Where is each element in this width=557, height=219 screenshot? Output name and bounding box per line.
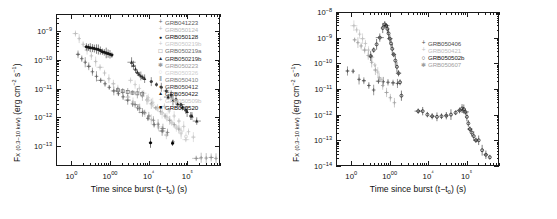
x-minor-tick xyxy=(184,14,185,17)
data-point xyxy=(355,28,359,32)
legend-label: GRB050410 xyxy=(165,76,198,83)
x-major-tick xyxy=(467,12,468,17)
data-point xyxy=(353,38,357,42)
y-minor-tick xyxy=(218,33,221,34)
y-minor-tick xyxy=(336,66,339,67)
x-minor-tick xyxy=(408,12,409,15)
y-minor-tick xyxy=(497,74,500,75)
y-minor-tick xyxy=(497,40,500,41)
y-minor-tick xyxy=(56,95,59,96)
y-minor-tick xyxy=(218,66,221,67)
x-minor-tick xyxy=(147,14,148,17)
legend-label: GRB050421 xyxy=(428,47,461,54)
y-minor-tick xyxy=(497,91,500,92)
y-minor-tick xyxy=(497,20,500,21)
data-point xyxy=(152,119,156,123)
x-minor-tick xyxy=(143,14,144,17)
y-minor-tick xyxy=(56,119,59,120)
data-point xyxy=(194,157,198,161)
y-minor-tick xyxy=(218,104,221,105)
y-minor-tick xyxy=(497,128,500,129)
data-point xyxy=(361,37,365,41)
x-minor-tick xyxy=(128,163,129,166)
y-minor-tick xyxy=(336,102,339,103)
y-minor-tick xyxy=(497,22,500,23)
y-minor-tick xyxy=(56,34,59,35)
y-minor-tick xyxy=(218,126,221,127)
y-minor-tick xyxy=(218,80,221,81)
data-point xyxy=(136,70,139,73)
x-minor-tick xyxy=(461,163,462,166)
data-point xyxy=(381,80,385,84)
legend-item: +GRB050406 xyxy=(419,40,464,47)
data-point xyxy=(103,71,107,75)
data-point xyxy=(187,130,191,134)
x-minor-tick xyxy=(420,12,421,15)
y-minor-tick xyxy=(497,144,500,145)
x-minor-tick xyxy=(211,163,212,166)
x-minor-tick xyxy=(381,163,382,166)
legend-item: +GRB050124 xyxy=(156,26,201,33)
x-major-tick xyxy=(187,161,188,166)
y-minor-tick xyxy=(336,120,339,121)
y-tick-label: 10−10 xyxy=(22,55,52,66)
y-minor-tick xyxy=(336,81,339,82)
y-minor-tick xyxy=(56,132,59,133)
data-point xyxy=(110,54,113,57)
y-minor-tick xyxy=(56,61,59,62)
x-minor-tick xyxy=(370,12,371,15)
y-minor-tick xyxy=(497,48,500,49)
data-point xyxy=(112,82,116,86)
y-minor-tick xyxy=(497,43,500,44)
data-point xyxy=(133,103,137,107)
y-minor-tick xyxy=(218,93,221,94)
data-point xyxy=(374,68,378,72)
y-minor-tick xyxy=(218,46,221,47)
y-minor-tick xyxy=(497,66,500,67)
y-minor-tick xyxy=(56,91,59,92)
x-minor-tick xyxy=(478,12,479,15)
x-minor-tick xyxy=(145,14,146,17)
data-point xyxy=(386,80,390,84)
x-minor-tick xyxy=(179,163,180,166)
y-minor-tick xyxy=(336,22,339,23)
x-minor-tick xyxy=(461,12,462,15)
y-minor-tick xyxy=(497,119,500,120)
x-minor-tick xyxy=(140,14,141,17)
y-minor-tick xyxy=(336,51,339,52)
data-point xyxy=(149,141,152,144)
legend-marker-icon: ■ xyxy=(156,104,165,110)
x-minor-tick xyxy=(90,14,91,17)
x-minor-tick xyxy=(370,163,371,166)
x-minor-tick xyxy=(386,12,387,15)
x-minor-tick xyxy=(451,12,452,15)
y-minor-tick xyxy=(497,77,500,78)
y-minor-tick xyxy=(218,122,221,123)
legend-label: GRB050607 xyxy=(428,61,461,68)
y-minor-tick xyxy=(336,45,339,46)
y-minor-tick xyxy=(336,30,339,31)
y-axis-label-left: FX (0.3–10 keV) (erg cm−2 s−1) xyxy=(11,63,22,162)
y-minor-tick xyxy=(336,56,339,57)
y-minor-tick xyxy=(336,146,339,147)
y-tick-label: 10−11 xyxy=(22,83,52,94)
x-minor-tick xyxy=(214,14,215,17)
data-point xyxy=(112,89,116,93)
legend-label: GRB050219a xyxy=(165,47,201,54)
data-point xyxy=(98,65,102,69)
y-minor-tick xyxy=(218,129,221,130)
y-minor-tick xyxy=(56,97,59,98)
data-point xyxy=(363,48,367,52)
x-minor-tick xyxy=(386,163,387,166)
y-minor-tick xyxy=(497,30,500,31)
y-tick-label: 10−11 xyxy=(302,84,332,95)
x-minor-tick xyxy=(176,14,177,17)
data-point xyxy=(131,102,135,106)
y-minor-tick xyxy=(218,109,221,110)
data-point xyxy=(157,125,161,129)
data-point xyxy=(358,32,362,36)
x-minor-tick xyxy=(490,12,491,15)
y-minor-tick xyxy=(336,107,339,108)
y-minor-tick xyxy=(336,39,339,40)
legend-item: ○GRB050326 xyxy=(156,69,201,76)
